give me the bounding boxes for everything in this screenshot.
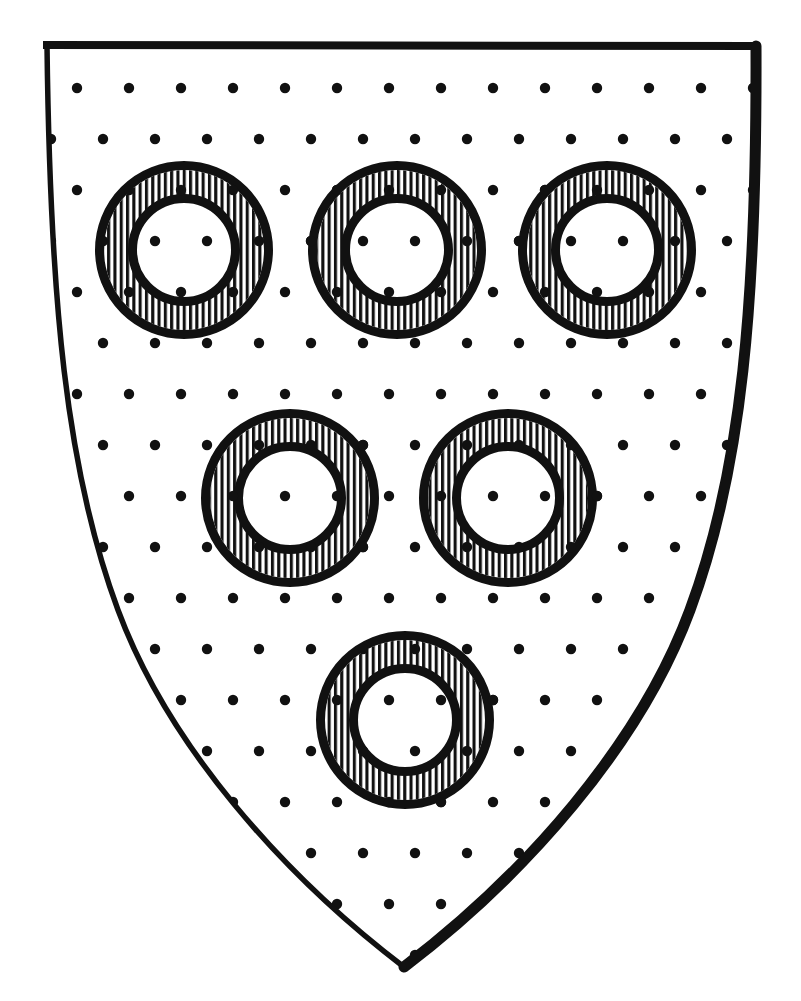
annulet (201, 409, 379, 587)
field-dot (46, 338, 56, 348)
field-dot (202, 746, 212, 756)
field-dot (566, 440, 576, 450)
field-dot (696, 899, 706, 909)
field-dot (436, 593, 446, 603)
field-dot (696, 695, 706, 705)
field-dot (46, 440, 56, 450)
field-dot (436, 491, 446, 501)
field-dot (566, 950, 576, 960)
field-dot (592, 593, 602, 603)
field-dot (46, 644, 56, 654)
field-dot (150, 746, 160, 756)
field-dot (332, 695, 342, 705)
field-dot (228, 695, 238, 705)
field-dot (384, 185, 394, 195)
field-dot (488, 491, 498, 501)
field-dot (618, 134, 628, 144)
field-dot (670, 746, 680, 756)
field-dot (72, 185, 82, 195)
field-dot (566, 542, 576, 552)
field-dot (98, 848, 108, 858)
field-dot (540, 695, 550, 705)
field-dot (124, 185, 134, 195)
field-dot (748, 899, 758, 909)
field-dot (488, 83, 498, 93)
field-dot (644, 491, 654, 501)
field-dot (332, 593, 342, 603)
field-dot (410, 542, 420, 552)
field-dot (176, 899, 186, 909)
field-dot (488, 389, 498, 399)
field-dot (306, 848, 316, 858)
field-dot (306, 746, 316, 756)
field-dot (280, 695, 290, 705)
field-dot (644, 797, 654, 807)
field-dot (462, 542, 472, 552)
field-dot (514, 542, 524, 552)
field-dot (696, 491, 706, 501)
field-dot (306, 134, 316, 144)
field-dot (176, 593, 186, 603)
field-dot (462, 746, 472, 756)
field-dot (358, 236, 368, 246)
field-dot (514, 134, 524, 144)
field-dot (618, 440, 628, 450)
field-dot (462, 236, 472, 246)
field-dot (202, 236, 212, 246)
field-dot (722, 542, 732, 552)
field-dot (514, 236, 524, 246)
field-dot (488, 593, 498, 603)
field-dot (644, 899, 654, 909)
field-dot (436, 899, 446, 909)
field-dot (46, 746, 56, 756)
field-dot (696, 185, 706, 195)
field-dot (566, 848, 576, 858)
field-dot (358, 746, 368, 756)
field-dot (98, 236, 108, 246)
field-dot (228, 287, 238, 297)
field-dot (514, 950, 524, 960)
field-dot (306, 236, 316, 246)
field-dot (98, 950, 108, 960)
field-dot (644, 83, 654, 93)
field-dot (280, 185, 290, 195)
field-dot (488, 797, 498, 807)
field-dot (644, 593, 654, 603)
field-dot (280, 83, 290, 93)
field-dot (306, 644, 316, 654)
field-dot (228, 389, 238, 399)
field-dot (592, 287, 602, 297)
field-dot (722, 746, 732, 756)
field-dot (618, 848, 628, 858)
field-dot (358, 542, 368, 552)
field-dot (540, 797, 550, 807)
field-dot (696, 83, 706, 93)
field-dot (72, 593, 82, 603)
field-dot (332, 287, 342, 297)
field-dot (150, 134, 160, 144)
field-dot (488, 695, 498, 705)
field-dot (384, 899, 394, 909)
field-dot (72, 695, 82, 705)
field-dot (384, 593, 394, 603)
field-dot (46, 848, 56, 858)
field-dot (228, 899, 238, 909)
field-dot (384, 83, 394, 93)
field-dot (280, 899, 290, 909)
field-dot (332, 491, 342, 501)
field-dot (202, 338, 212, 348)
field-dot (332, 83, 342, 93)
field-dot (696, 287, 706, 297)
field-dot (150, 338, 160, 348)
field-dot (228, 83, 238, 93)
field-dot (72, 491, 82, 501)
field-dot (202, 848, 212, 858)
field-dot (202, 440, 212, 450)
field-dot (384, 287, 394, 297)
field-dot (280, 389, 290, 399)
field-dot (462, 338, 472, 348)
field-dot (748, 593, 758, 603)
field-dot (254, 440, 264, 450)
field-dot (202, 644, 212, 654)
field-dot (358, 134, 368, 144)
